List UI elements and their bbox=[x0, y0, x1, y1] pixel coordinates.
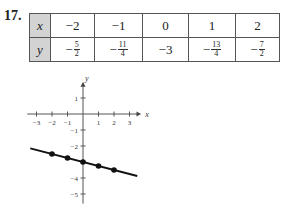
data-point bbox=[49, 151, 55, 157]
y-tick-label: −4 bbox=[71, 175, 79, 183]
y-tick-label: −5 bbox=[71, 191, 79, 199]
x-axis-label: x bbox=[144, 110, 149, 119]
data-point bbox=[111, 167, 117, 173]
x-tick-label: −3 bbox=[33, 119, 41, 127]
y-tick-label: 1 bbox=[75, 95, 79, 103]
data-point bbox=[96, 163, 102, 169]
x-tick-label: −2 bbox=[48, 119, 56, 127]
axes: xy−3−2−11231−1−2−4−5 bbox=[27, 74, 149, 203]
y-tick-label: −2 bbox=[71, 143, 79, 151]
x-axis-arrow-icon bbox=[136, 112, 141, 117]
x-tick-label: 2 bbox=[112, 119, 116, 127]
x-tick-label: 3 bbox=[128, 119, 132, 127]
data-point bbox=[80, 159, 86, 165]
data-point bbox=[65, 155, 71, 161]
y-tick-label: −1 bbox=[71, 127, 79, 135]
x-tick-label: 1 bbox=[97, 119, 101, 127]
plot-area bbox=[30, 148, 137, 176]
line-graph: xy−3−2−11231−1−2−4−5 bbox=[0, 0, 297, 209]
y-axis-label: y bbox=[84, 74, 89, 83]
